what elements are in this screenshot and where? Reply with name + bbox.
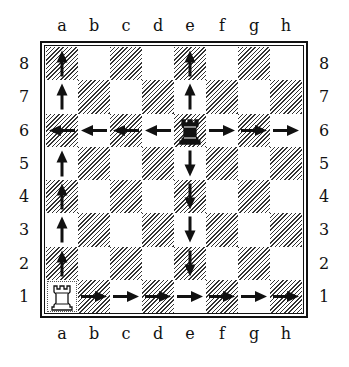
file-label-c-bottom: c [110, 326, 142, 342]
square-h3[interactable] [270, 213, 302, 246]
square-f1[interactable] [206, 280, 238, 313]
square-d4[interactable] [142, 180, 174, 213]
square-h2[interactable] [270, 247, 302, 280]
file-label-d-top: d [142, 18, 174, 34]
square-a4[interactable] [46, 180, 78, 213]
rank-label-1-left: 1 [14, 289, 34, 305]
file-label-f-top: f [206, 18, 238, 34]
square-a7[interactable] [46, 80, 78, 113]
square-b3[interactable] [78, 213, 110, 246]
file-label-a-bottom: a [46, 326, 78, 342]
square-f3[interactable] [206, 213, 238, 246]
square-f4[interactable] [206, 180, 238, 213]
square-b2[interactable] [78, 247, 110, 280]
file-label-g-top: g [238, 18, 270, 34]
square-c6[interactable] [110, 114, 142, 147]
file-label-b-bottom: b [78, 326, 110, 342]
arrow-up-icon [46, 80, 78, 113]
square-a2[interactable] [46, 247, 78, 280]
square-f7[interactable] [206, 80, 238, 113]
arrow-right-icon [174, 280, 206, 313]
square-c3[interactable] [110, 213, 142, 246]
square-g5[interactable] [238, 147, 270, 180]
square-h4[interactable] [270, 180, 302, 213]
square-g6[interactable] [238, 114, 270, 147]
square-h1[interactable] [270, 280, 302, 313]
arrow-right-icon [110, 280, 142, 313]
rank-label-2-right: 2 [314, 256, 334, 272]
square-d8[interactable] [142, 47, 174, 80]
square-g8[interactable] [238, 47, 270, 80]
square-c2[interactable] [110, 247, 142, 280]
arrow-down-icon [174, 180, 206, 213]
square-g4[interactable] [238, 180, 270, 213]
arrow-right-icon [142, 280, 174, 313]
rank-label-7-left: 7 [14, 89, 34, 105]
square-a5[interactable] [46, 147, 78, 180]
square-c8[interactable] [110, 47, 142, 80]
square-a1[interactable] [46, 280, 78, 313]
square-c1[interactable] [110, 280, 142, 313]
square-a3[interactable] [46, 213, 78, 246]
file-label-h-top: h [270, 18, 302, 34]
square-d2[interactable] [142, 247, 174, 280]
square-f8[interactable] [206, 47, 238, 80]
arrow-right-icon [270, 114, 302, 147]
square-c7[interactable] [110, 80, 142, 113]
square-g1[interactable] [238, 280, 270, 313]
square-b6[interactable] [78, 114, 110, 147]
rank-label-2-left: 2 [14, 256, 34, 272]
square-f2[interactable] [206, 247, 238, 280]
arrow-right-icon [270, 280, 302, 313]
square-a8[interactable] [46, 47, 78, 80]
square-f5[interactable] [206, 147, 238, 180]
file-label-a-top: a [46, 18, 78, 34]
arrow-left-icon [78, 114, 110, 147]
square-h7[interactable] [270, 80, 302, 113]
square-e4[interactable] [174, 180, 206, 213]
square-e7[interactable] [174, 80, 206, 113]
square-b1[interactable] [78, 280, 110, 313]
square-h6[interactable] [270, 114, 302, 147]
rank-label-4-left: 4 [14, 189, 34, 205]
square-g7[interactable] [238, 80, 270, 113]
rank-label-8-left: 8 [14, 56, 34, 72]
square-e3[interactable] [174, 213, 206, 246]
square-g2[interactable] [238, 247, 270, 280]
file-label-h-bottom: h [270, 326, 302, 342]
square-d7[interactable] [142, 80, 174, 113]
square-f6[interactable] [206, 114, 238, 147]
file-label-b-top: b [78, 18, 110, 34]
file-label-e-bottom: e [174, 326, 206, 342]
square-d5[interactable] [142, 147, 174, 180]
square-a6[interactable] [46, 114, 78, 147]
square-b7[interactable] [78, 80, 110, 113]
square-c5[interactable] [110, 147, 142, 180]
square-d3[interactable] [142, 213, 174, 246]
square-b5[interactable] [78, 147, 110, 180]
square-d1[interactable] [142, 280, 174, 313]
arrow-left-icon [46, 114, 78, 147]
square-e2[interactable] [174, 247, 206, 280]
arrow-up-icon [46, 47, 78, 80]
square-b4[interactable] [78, 180, 110, 213]
square-g3[interactable] [238, 213, 270, 246]
file-label-f-bottom: f [206, 326, 238, 342]
square-h5[interactable] [270, 147, 302, 180]
square-e1[interactable] [174, 280, 206, 313]
square-h8[interactable] [270, 47, 302, 80]
rank-label-4-right: 4 [314, 189, 334, 205]
file-label-g-bottom: g [238, 326, 270, 342]
square-e5[interactable] [174, 147, 206, 180]
arrow-left-icon [142, 114, 174, 147]
arrow-right-icon [238, 280, 270, 313]
square-e8[interactable] [174, 47, 206, 80]
arrow-right-icon [78, 280, 110, 313]
file-label-d-bottom: d [142, 326, 174, 342]
white-rook-icon[interactable] [46, 280, 78, 313]
square-d6[interactable] [142, 114, 174, 147]
square-e6[interactable] [174, 114, 206, 147]
square-c4[interactable] [110, 180, 142, 213]
square-b8[interactable] [78, 47, 110, 80]
black-rook-icon[interactable] [174, 114, 206, 147]
